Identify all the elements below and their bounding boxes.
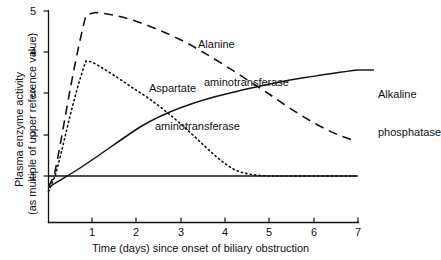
y-axis-title-line-2: (as multiple of upper reference value) xyxy=(26,33,38,215)
series-label-aspartate-aminotransferase: Aspartate aminotransferase xyxy=(138,57,240,157)
series-label-aspartate-line-1: Aspartate xyxy=(138,82,240,95)
x-tick-label-5: 5 xyxy=(266,226,272,238)
series-label-alkaline-line-1: Alkaline xyxy=(378,88,441,101)
y-axis-title-line-1: Plasma enzyme activity xyxy=(13,72,25,187)
x-tick-label-4: 4 xyxy=(222,226,228,238)
y-tick-label-5: 5 xyxy=(30,5,36,17)
x-tick-marks xyxy=(92,218,358,223)
x-tick-label-1: 1 xyxy=(89,226,95,238)
x-tick-label-2: 2 xyxy=(133,226,139,238)
series-label-alkaline-line-2: phosphatase xyxy=(378,126,441,139)
series-label-aspartate-line-2: aminotransferase xyxy=(138,120,240,133)
x-tick-label-7: 7 xyxy=(355,226,361,238)
x-tick-label-6: 6 xyxy=(311,226,317,238)
x-tick-label-3: 3 xyxy=(178,226,184,238)
x-axis-title: Time (days) since onset of biliary obstr… xyxy=(92,242,309,254)
series-label-alkaline-phosphatase: Alkaline phosphatase xyxy=(378,63,441,163)
y-tick-marks xyxy=(44,11,49,176)
series-label-alanine-line-1: Alanine xyxy=(187,38,289,51)
